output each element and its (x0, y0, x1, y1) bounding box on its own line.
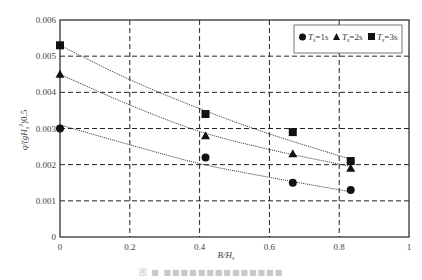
y-axis-ticks: 00.0010.0020.0030.0040.0050.006 (36, 15, 57, 242)
legend-label: Ts=1s (308, 32, 329, 43)
legend-square-icon (368, 33, 375, 40)
y-tick-label: 0.006 (36, 15, 57, 25)
y-tick-label: 0.002 (36, 160, 56, 170)
x-tick-label: 0.8 (334, 242, 346, 252)
chart: 00.0010.0020.0030.0040.0050.006 00.20.40… (0, 0, 422, 280)
circle-marker (202, 153, 210, 161)
legend-circle-icon (299, 34, 306, 41)
y-axis-label: q/(gHs3)0.5 (18, 109, 30, 150)
y-tick-label: 0.004 (36, 87, 57, 97)
y-tick-label: 0.005 (36, 51, 57, 61)
legend-label: Ts=3s (377, 32, 398, 43)
x-axis-ticks: 00.20.40.60.81 (58, 242, 412, 252)
trend-line-triangle (60, 74, 351, 166)
x-tick-label: 0 (58, 242, 63, 252)
legend-label: Ts=2s (342, 32, 363, 43)
y-tick-label: 0.001 (36, 196, 56, 206)
x-tick-label: 0.6 (264, 242, 276, 252)
trend-lines (60, 45, 351, 191)
legend: Ts=1sTs=2sTs=3s (294, 25, 402, 53)
x-axis-label: B/Hs (218, 250, 236, 261)
triangle-marker (201, 131, 210, 139)
figure-caption: 图 ■ ■■■■■■■■■■■■■■ (0, 266, 422, 277)
triangle-marker (288, 149, 297, 157)
data-points (56, 41, 356, 194)
square-marker (289, 128, 297, 136)
x-tick-label: 0.2 (124, 242, 135, 252)
circle-marker (56, 125, 64, 133)
circle-marker (347, 186, 355, 194)
square-marker (347, 157, 355, 165)
x-tick-label: 1 (407, 242, 412, 252)
circle-marker (289, 179, 297, 187)
triangle-marker (56, 70, 65, 78)
y-tick-label: 0 (52, 232, 57, 242)
trend-line-square (60, 45, 351, 159)
x-tick-label: 0.4 (194, 242, 206, 252)
square-marker (202, 110, 210, 118)
y-tick-label: 0.003 (36, 124, 57, 134)
square-marker (56, 41, 64, 49)
